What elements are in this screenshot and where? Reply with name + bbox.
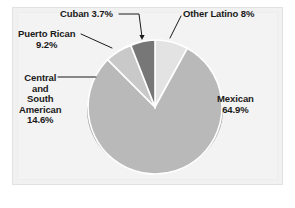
pie-label-central-line1: Central [19,73,62,84]
pie-label-central-line3: South [19,94,62,105]
pie-label-other-latino: Other Latino 8% [183,9,254,20]
pie-label-puerto-rican: Puerto Rican9.2% [18,29,75,50]
pie-label-mexican-line2: 64.9% [217,105,254,116]
pie-label-mexican: Mexican64.9% [217,94,254,115]
leader-arrowheads [139,35,144,40]
leader-line-cuban [119,14,142,37]
leader-line-puerto-rican [81,34,112,48]
pie-label-central-line5: 14.6% [19,115,62,126]
pie-label-central-south-american: CentralandSouthAmerican14.6% [19,73,62,126]
pie-label-puerto-rican-line2: 9.2% [18,40,75,51]
pie-label-mexican-line1: Mexican [217,94,254,105]
pie-label-cuban: Cuban 3.7% [60,9,113,20]
pie-label-puerto-rican-line1: Puerto Rican [18,29,75,40]
leader-line-other-latino [170,16,181,38]
